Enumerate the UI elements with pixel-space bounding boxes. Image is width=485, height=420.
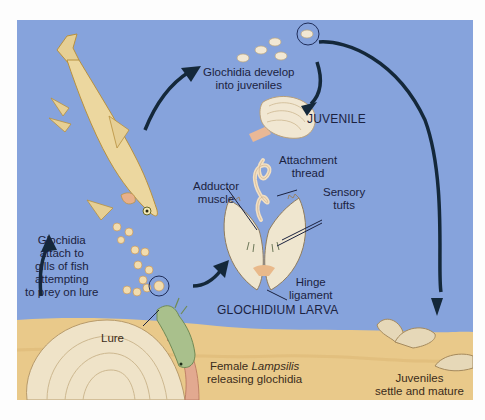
label-line: gills of fish bbox=[25, 260, 99, 273]
label-hinge-ligament: Hinge ligament bbox=[289, 276, 332, 302]
juvenile-mussel-icon bbox=[249, 96, 315, 142]
label-female-lampsilis: Female Lampsilis releasing glochidia bbox=[207, 360, 302, 386]
label-sensory-tufts: Sensory tufts bbox=[323, 186, 365, 212]
glochidia-developing-icon bbox=[237, 30, 313, 62]
label-line: settle and mature bbox=[375, 385, 464, 398]
label-genus: Lampsilis bbox=[251, 360, 299, 372]
label-line: releasing glochidia bbox=[207, 373, 302, 386]
fish-icon bbox=[49, 34, 157, 220]
glochidia-cloud-icon bbox=[113, 223, 164, 296]
label-juvenile: JUVENILE bbox=[307, 113, 366, 126]
label-line: ligament bbox=[289, 289, 332, 302]
label-line: into juveniles bbox=[203, 79, 294, 92]
label-line: Juveniles bbox=[375, 372, 464, 385]
label-text: Female bbox=[210, 360, 252, 372]
label-line: Glochidia bbox=[25, 234, 99, 247]
label-line: Attachment bbox=[279, 154, 337, 167]
label-line: attempting bbox=[25, 273, 99, 286]
label-line: thread bbox=[279, 167, 337, 180]
label-glochidia-develop: Glochidia develop into juveniles bbox=[203, 66, 294, 92]
label-line: to prey on lure bbox=[25, 286, 99, 299]
label-lure: Lure bbox=[101, 332, 124, 345]
label-glochidium-larva: GLOCHIDIUM LARVA bbox=[217, 304, 338, 317]
diagram-frame: Glochidia develop into juveniles JUVENIL… bbox=[17, 20, 473, 400]
label-juveniles-settle: Juveniles settle and mature bbox=[375, 372, 464, 398]
label-line: tufts bbox=[323, 199, 365, 212]
label-line: Glochidia develop bbox=[203, 66, 294, 79]
label-line: Sensory bbox=[323, 186, 365, 199]
label-line: attach to bbox=[25, 247, 99, 260]
label-attachment-thread: Attachment thread bbox=[279, 154, 337, 180]
label-glochidia-attach: Glochidia attach to gills of fish attemp… bbox=[25, 234, 99, 299]
label-line: Adductor bbox=[193, 180, 239, 193]
label-adductor-muscle: Adductor muscle bbox=[193, 180, 239, 206]
label-line: muscle bbox=[193, 193, 239, 206]
label-line: Female Lampsilis bbox=[207, 360, 302, 373]
label-line: Hinge bbox=[289, 276, 332, 289]
